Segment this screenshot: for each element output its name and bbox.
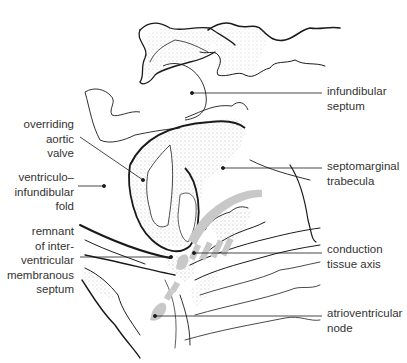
lower-stipple [82, 268, 115, 300]
label-line: fold [15, 199, 74, 214]
label-line: ventriculo– [15, 170, 74, 185]
upper-stipple-2 [212, 25, 266, 72]
label-remnant-membranous-septum: remnant of inter- ventricular membranous… [7, 224, 74, 297]
label-line: ventricular [7, 253, 74, 268]
label-line: infundibular [327, 84, 386, 99]
label-line: overriding [24, 117, 75, 132]
label-septomarginal-trabecula: septomarginal trabecula [327, 159, 399, 188]
label-line: of inter- [7, 239, 74, 254]
upper-stipple [144, 27, 212, 80]
label-line: trabecula [327, 174, 399, 189]
label-overriding-aortic-valve: overriding aortic valve [24, 117, 75, 161]
label-line: valve [24, 146, 75, 161]
label-line: septum [327, 99, 386, 114]
label-line: aortic [24, 132, 75, 147]
label-line: membranous [7, 268, 74, 283]
label-line: remnant [7, 224, 74, 239]
label-line: conduction [327, 242, 383, 257]
label-atrioventricular-node: atrioventricular node [327, 306, 402, 335]
label-line: infundibular [15, 185, 74, 200]
label-ventriculo-infundibular-fold: ventriculo– infundibular fold [15, 170, 74, 214]
label-infundibular-septum: infundibular septum [327, 84, 386, 113]
label-conduction-tissue-axis: conduction tissue axis [327, 242, 383, 271]
label-line: septomarginal [327, 159, 399, 174]
label-line: node [327, 321, 402, 336]
label-line: atrioventricular [327, 306, 402, 321]
label-line: septum [7, 282, 74, 297]
label-line: tissue axis [327, 257, 383, 272]
